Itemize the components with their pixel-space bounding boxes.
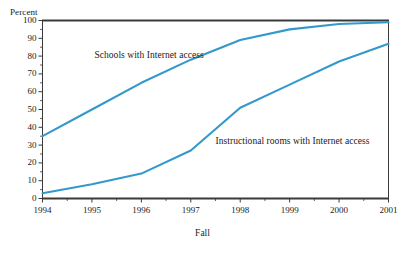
series-line-schools <box>43 22 389 136</box>
y-tick-label: 40 <box>13 123 37 132</box>
y-tick-label: 30 <box>13 141 37 150</box>
plot-frame <box>43 21 389 199</box>
series-annotation-instructional-rooms: Instructional rooms with Internet access <box>216 136 370 146</box>
y-tick-label: 80 <box>13 52 37 61</box>
x-tick-label: 1994 <box>23 206 63 215</box>
data-series-group <box>43 22 389 193</box>
plot-area <box>0 0 405 253</box>
x-tick-label: 1995 <box>72 206 112 215</box>
y-tick-label: 60 <box>13 87 37 96</box>
y-tick-label: 100 <box>13 16 37 25</box>
y-tick-label: 0 <box>13 194 37 203</box>
x-axis-label: Fall <box>0 228 405 238</box>
x-tick-label: 1997 <box>171 206 211 215</box>
chart-figure: Percent Fall 0102030405060708090100 1994… <box>0 0 405 253</box>
series-annotation-schools: Schools with Internet access <box>94 50 203 60</box>
x-tick-label: 2001 <box>369 206 405 215</box>
x-tick-label: 1996 <box>121 206 161 215</box>
y-tick-label: 50 <box>13 105 37 114</box>
y-tick-label: 90 <box>13 34 37 43</box>
y-tick-label: 10 <box>13 176 37 185</box>
y-tick-label: 70 <box>13 69 37 78</box>
series-line-instructional-rooms <box>43 44 389 194</box>
x-tick-label: 2000 <box>319 206 359 215</box>
y-tick-label: 20 <box>13 158 37 167</box>
x-tick-label: 1999 <box>270 206 310 215</box>
x-tick-label: 1998 <box>220 206 260 215</box>
axis-ticks <box>39 21 389 203</box>
